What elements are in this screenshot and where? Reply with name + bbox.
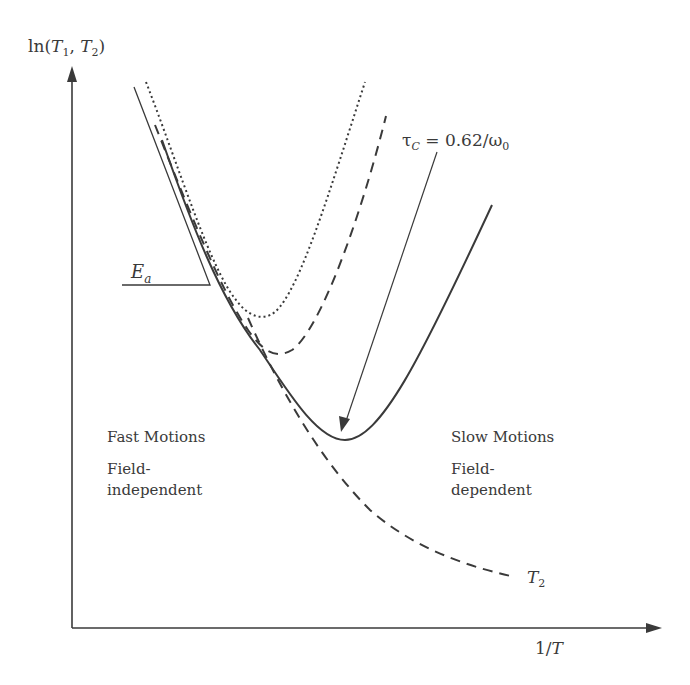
field-dependent-label-2: dependent	[451, 481, 532, 499]
y-axis-label: ln(T1, T2)	[28, 36, 105, 59]
activation-energy-label: Ea	[130, 261, 151, 286]
t1-curve-solid	[162, 140, 492, 440]
fast-motions-label: Fast Motions	[107, 428, 205, 446]
field-dependent-label-1: Field-	[451, 460, 495, 478]
x-axis-arrow-icon	[646, 623, 662, 633]
field-independent-label-1: Field-	[107, 460, 151, 478]
tau-c-label: τC = 0.62/ω0	[402, 130, 509, 153]
x-axis	[72, 623, 662, 633]
activation-energy-triangle	[122, 87, 210, 285]
t2-curve-label: T2	[527, 567, 545, 590]
tau-c-arrow	[345, 152, 437, 424]
y-axis	[67, 66, 77, 628]
slow-motions-label: Slow Motions	[451, 428, 554, 446]
arrow-head-icon	[339, 416, 350, 432]
y-axis-arrow-icon	[67, 66, 77, 82]
t2-curve-dashed	[248, 318, 515, 577]
field-independent-label-2: independent	[107, 481, 202, 499]
x-axis-label: 1/T	[535, 638, 565, 658]
relaxation-diagram: ln(T1, T2) 1/T Ea τC = 0.62/ω0 Fast Moti…	[0, 0, 690, 685]
t1-curve-dashed	[155, 116, 386, 354]
